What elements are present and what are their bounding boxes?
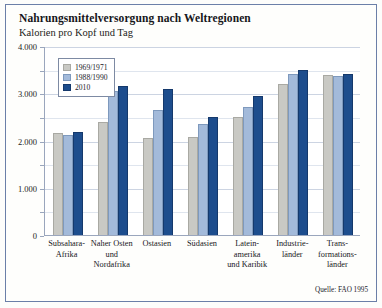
y-tick-label: 3.000 xyxy=(0,89,37,99)
y-tick-mark xyxy=(40,212,44,213)
y-tick-mark xyxy=(40,236,44,237)
legend-item: 2010 xyxy=(63,83,108,93)
y-tick-mark xyxy=(40,165,44,166)
chart-legend: 1969/19711988/19902010 xyxy=(58,58,115,97)
bar xyxy=(333,76,343,235)
x-axis-labels: Subsahara-AfrikaNaher OstenundNordafrika… xyxy=(44,239,360,271)
chart-subtitle: Kalorien pro Kopf und Tag xyxy=(19,27,133,38)
x-axis-label: Trans-formations-länder xyxy=(315,239,360,271)
y-tick-mark xyxy=(40,142,44,143)
bar xyxy=(198,124,208,235)
bar-group xyxy=(225,47,270,235)
bar xyxy=(73,132,83,235)
bar-group xyxy=(180,47,225,235)
bar-group xyxy=(315,47,360,235)
bar xyxy=(323,75,333,235)
y-tick-mark xyxy=(40,47,44,48)
legend-swatch xyxy=(63,84,71,91)
y-tick-mark xyxy=(40,118,44,119)
bar xyxy=(163,89,173,235)
x-axis-label: Naher OstenundNordafrika xyxy=(89,239,134,271)
x-axis-label: Subsahara-Afrika xyxy=(44,239,89,271)
bar xyxy=(243,107,253,235)
bar xyxy=(98,122,108,235)
x-axis-label: Latein-amerikaund Karibik xyxy=(225,239,270,271)
source-note: Quelle: FAO 1995 xyxy=(315,286,368,294)
x-axis-label: Industrie-länder xyxy=(270,239,315,271)
legend-label: 2010 xyxy=(75,83,90,92)
y-tick-label: 4.000 xyxy=(0,42,37,52)
figure-root: Nahrungsmittelversorgung nach Weltregion… xyxy=(0,0,382,308)
bar xyxy=(298,70,308,235)
chart-title: Nahrungsmittelversorgung nach Weltregion… xyxy=(19,12,251,24)
bar xyxy=(343,74,353,235)
legend-item: 1988/1990 xyxy=(63,73,108,83)
bar xyxy=(108,91,118,235)
y-tick-mark xyxy=(40,94,44,95)
y-tick-label: 0 xyxy=(0,231,37,241)
legend-label: 1969/1971 xyxy=(75,63,108,72)
legend-item: 1969/1971 xyxy=(63,63,108,73)
legend-label: 1988/1990 xyxy=(75,73,108,82)
bar xyxy=(118,86,128,235)
bar xyxy=(288,74,298,235)
bar xyxy=(208,117,218,235)
bar xyxy=(188,137,198,235)
y-tick-label: 2.000 xyxy=(0,137,37,147)
bar xyxy=(278,84,288,235)
x-axis-label: Ostasien xyxy=(134,239,179,271)
bar xyxy=(143,138,153,235)
bar xyxy=(53,133,63,235)
bar xyxy=(153,110,163,235)
bar xyxy=(233,117,243,235)
bar xyxy=(253,96,263,235)
bar-group xyxy=(135,47,180,235)
bar xyxy=(63,135,73,235)
bar-group xyxy=(270,47,315,235)
y-tick-label: 1.000 xyxy=(0,184,37,194)
legend-swatch xyxy=(63,64,71,71)
y-tick-mark xyxy=(40,189,44,190)
x-axis-label: Südasien xyxy=(179,239,224,271)
y-tick-mark xyxy=(40,71,44,72)
legend-swatch xyxy=(63,74,71,81)
